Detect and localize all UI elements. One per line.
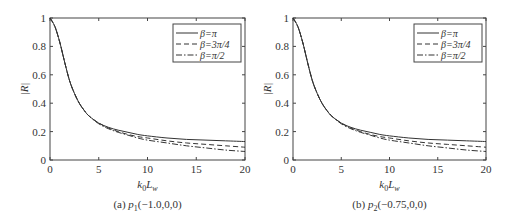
x-tick-label: 15	[191, 163, 203, 175]
x-tick-label: 5	[96, 163, 102, 175]
legend-label: β=3π/4	[440, 39, 471, 50]
y-tick-label: 0.6	[275, 69, 289, 81]
x-tick-label: 10	[384, 163, 396, 175]
x-tick-label: 5	[339, 163, 345, 175]
y-tick-label: 0.4	[275, 97, 289, 109]
x-axis-label: k0Lw	[379, 178, 400, 193]
legend-label: β=π/2	[440, 50, 466, 61]
y-tick-label: 0.6	[32, 69, 46, 81]
chart-panel-a: 0510152000.20.40.60.81β=πβ=3π/4β=π/2|R|k…	[18, 12, 251, 213]
y-tick-label: 1	[284, 12, 290, 24]
y-tick-label: 0.8	[275, 40, 289, 52]
y-tick-label: 0.2	[32, 126, 46, 138]
legend-label: β=π	[440, 28, 459, 39]
figure: 0510152000.20.40.60.81β=πβ=3π/4β=π/2|R|k…	[0, 0, 509, 222]
y-tick-label: 0	[41, 154, 47, 166]
legend: β=πβ=3π/4β=π/2	[414, 24, 482, 62]
y-axis-label: |R|	[261, 83, 273, 96]
x-tick-label: 15	[432, 163, 444, 175]
y-tick-label: 0.8	[32, 40, 46, 52]
x-tick-label: 20	[481, 163, 493, 175]
chart-panel-b: 0510152000.20.40.60.81β=πβ=3π/4β=π/2|R|k…	[261, 12, 492, 213]
y-tick-label: 0.4	[32, 97, 46, 109]
y-tick-label: 0.2	[275, 126, 289, 138]
legend-label: β=π/2	[199, 50, 225, 61]
y-tick-label: 0	[284, 154, 290, 166]
subfigure-caption: (b) p2(−0.75,0,0)	[352, 198, 427, 213]
x-tick-label: 0	[290, 163, 296, 175]
x-tick-label: 20	[240, 163, 252, 175]
y-axis-label: |R|	[18, 83, 30, 96]
legend-label: β=3π/4	[199, 39, 230, 50]
subfigure-caption: (a) p1(−1.0,0,0)	[113, 198, 182, 213]
x-tick-label: 0	[47, 163, 53, 175]
x-axis-label: k0Lw	[137, 178, 158, 193]
y-tick-label: 1	[41, 12, 47, 24]
legend-label: β=π	[199, 28, 218, 39]
x-tick-label: 10	[142, 163, 154, 175]
legend: β=πβ=3π/4β=π/2	[173, 24, 241, 62]
